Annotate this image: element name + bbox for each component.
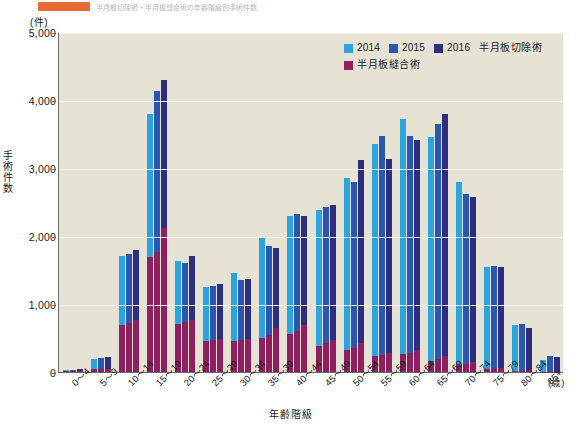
bar-group[interactable] <box>119 33 139 372</box>
bar-group[interactable] <box>344 33 364 372</box>
bar[interactable] <box>456 182 462 372</box>
bar[interactable] <box>498 267 504 372</box>
y-tick-mark <box>52 33 56 34</box>
bar[interactable] <box>175 260 181 372</box>
y-tick-mark <box>52 305 56 306</box>
bar[interactable] <box>91 359 97 372</box>
legend-label-suture: 半月板縫合術 <box>357 58 420 72</box>
bar[interactable] <box>372 144 378 372</box>
bar-segment-excision <box>259 237 265 338</box>
bar[interactable] <box>379 136 385 372</box>
bar[interactable] <box>266 246 272 372</box>
legend-label-2014: 2014 <box>357 41 380 55</box>
bar[interactable] <box>316 210 322 372</box>
bar-segment-suture <box>126 323 132 372</box>
bar[interactable] <box>330 205 336 372</box>
bar-segment-excision <box>175 261 181 324</box>
bar-segment-suture <box>407 353 413 372</box>
bar-segment-excision <box>330 205 336 340</box>
bar[interactable] <box>463 194 469 372</box>
bar[interactable] <box>358 160 364 372</box>
bar[interactable] <box>491 266 497 372</box>
bar-group[interactable] <box>147 33 167 372</box>
bar[interactable] <box>119 256 125 372</box>
plot-area <box>58 33 563 373</box>
bar-group[interactable] <box>316 33 336 372</box>
y-tick-label: 5,000 <box>4 27 56 39</box>
bar[interactable] <box>301 216 307 372</box>
bar[interactable] <box>217 284 223 372</box>
bar-group[interactable] <box>203 33 223 372</box>
gridline <box>59 169 563 170</box>
bar[interactable] <box>414 140 420 372</box>
bar[interactable] <box>435 124 441 372</box>
bar-group[interactable] <box>63 33 83 372</box>
bar[interactable] <box>182 263 188 372</box>
bar-segment-excision <box>344 178 350 350</box>
bar[interactable] <box>484 267 490 372</box>
bar-group[interactable] <box>540 33 560 372</box>
legend-item-2016: 2016 <box>434 41 470 55</box>
bar-segment-excision <box>287 216 293 334</box>
bar[interactable] <box>161 80 167 372</box>
bar-group[interactable] <box>231 33 251 372</box>
y-tick-label: 1,000 <box>4 299 56 311</box>
bar[interactable] <box>428 137 434 372</box>
bar-segment-excision <box>238 280 244 340</box>
bar-segment-excision <box>301 216 307 325</box>
bar-segment-excision <box>189 256 195 319</box>
bar[interactable] <box>400 119 406 372</box>
bar-segment-excision <box>386 159 392 353</box>
bar-segment-excision <box>456 182 462 364</box>
bar-segment-suture <box>154 252 160 372</box>
bar-group[interactable] <box>512 33 532 372</box>
bar-segment-excision <box>294 214 300 332</box>
bar[interactable] <box>470 197 476 372</box>
bar[interactable] <box>273 248 279 372</box>
gridline <box>59 101 563 102</box>
bar-segment-excision <box>491 266 497 369</box>
bar[interactable] <box>442 114 448 372</box>
bar[interactable] <box>386 158 392 372</box>
chart-legend: 2014 2015 2016 半月板切除術 半月板縫合術 <box>344 41 542 72</box>
bar[interactable] <box>147 114 153 372</box>
bar-segment-excision <box>147 114 153 257</box>
legend-swatch-2014 <box>344 44 353 53</box>
bar[interactable] <box>323 207 329 372</box>
bar[interactable] <box>344 178 350 372</box>
bar-segment-excision <box>463 194 469 364</box>
bar[interactable] <box>63 370 69 372</box>
bar[interactable] <box>245 279 251 372</box>
bar-segment-excision <box>266 246 272 335</box>
bar-group[interactable] <box>259 33 279 372</box>
bar-group[interactable] <box>428 33 448 372</box>
bar-group[interactable] <box>400 33 420 372</box>
bar[interactable] <box>407 136 413 372</box>
y-tick-mark <box>52 101 56 102</box>
bar-segment-suture <box>323 343 329 372</box>
bar-group[interactable] <box>287 33 307 372</box>
bar-segment-suture <box>147 257 153 372</box>
x-axis-title: 年齢階級 <box>0 406 581 421</box>
bar-group[interactable] <box>372 33 392 372</box>
bar[interactable] <box>238 280 244 372</box>
legend-series-excision: 半月板切除術 <box>479 41 542 55</box>
gridline <box>59 305 563 306</box>
bar-segment-suture <box>63 371 69 372</box>
bar[interactable] <box>287 216 293 372</box>
bar[interactable] <box>133 250 139 372</box>
bar-segment-suture <box>119 325 125 372</box>
bar-group[interactable] <box>91 33 111 372</box>
bar-segment-excision <box>323 207 329 343</box>
bar[interactable] <box>126 254 132 372</box>
bar[interactable] <box>210 286 216 372</box>
y-tick-label: 2,000 <box>4 231 56 243</box>
x-axis-unit: (歳) <box>548 375 564 389</box>
bar-group[interactable] <box>484 33 504 372</box>
bar[interactable] <box>189 256 195 372</box>
bar-group[interactable] <box>456 33 476 372</box>
bar[interactable] <box>351 182 357 372</box>
legend-item-suture: 半月板縫合術 <box>344 58 420 72</box>
bar[interactable] <box>154 91 160 372</box>
bar-group[interactable] <box>175 33 195 372</box>
